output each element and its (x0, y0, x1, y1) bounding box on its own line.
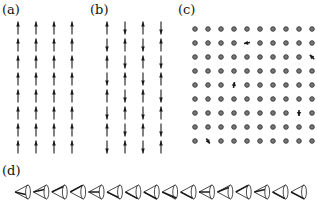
lattice-site-dot-icon (219, 97, 224, 102)
spin-up-arrow-icon (123, 107, 127, 120)
precession-cone-icon (15, 185, 30, 199)
defect-spin-arrow-icon (244, 41, 250, 45)
lattice-site-dot-icon (206, 83, 211, 88)
spin-up-arrow-icon (159, 73, 163, 86)
spin-down-arrow-icon (123, 22, 127, 35)
lattice-site-dot-icon (193, 83, 198, 88)
lattice-site-dot-icon (232, 125, 237, 130)
lattice-site-dot-icon (271, 41, 276, 46)
lattice-site-dot-icon (232, 111, 237, 116)
spin-up-arrow-icon (34, 22, 38, 35)
lattice-site-dot-icon (310, 111, 315, 116)
spin-up-arrow-icon (70, 39, 74, 52)
lattice-site-dot-icon (258, 83, 263, 88)
lattice-site-dot-icon (310, 125, 315, 130)
lattice-site-dot-icon (297, 69, 302, 74)
lattice-site-dot-icon (219, 69, 224, 74)
spin-down-arrow-icon (141, 39, 145, 52)
lattice-site-dot-icon (258, 111, 263, 116)
figure-canvas (0, 0, 317, 207)
precession-cone-icon (181, 185, 196, 199)
panel-c-defect-lattice (193, 27, 315, 144)
precession-cone-icon (254, 185, 269, 199)
defect-spin-arrow-icon (206, 139, 210, 144)
spin-up-arrow-icon (70, 90, 74, 103)
panel-b-antiferromagnet (105, 22, 163, 154)
precession-cone-icon (273, 185, 288, 199)
spin-down-arrow-icon (105, 141, 109, 154)
precession-cone-icon (291, 185, 306, 199)
spin-up-arrow-icon (52, 124, 56, 137)
lattice-site-dot-icon (206, 111, 211, 116)
lattice-site-dot-icon (245, 97, 250, 102)
lattice-site-dot-icon (284, 111, 289, 116)
lattice-site-dot-icon (193, 125, 198, 130)
lattice-site-dot-icon (232, 55, 237, 60)
spin-down-arrow-icon (141, 73, 145, 86)
spin-down-arrow-icon (123, 124, 127, 137)
lattice-site-dot-icon (219, 41, 224, 46)
spin-up-arrow-icon (141, 124, 145, 137)
lattice-site-dot-icon (284, 41, 289, 46)
spin-up-arrow-icon (141, 90, 145, 103)
lattice-site-dot-icon (310, 41, 315, 46)
precession-cone-icon (217, 185, 232, 199)
spin-up-arrow-icon (105, 56, 109, 69)
precession-cone-icon (144, 185, 159, 199)
spin-vector-arrow-icon (52, 187, 63, 192)
spin-up-arrow-icon (34, 56, 38, 69)
spin-vector-arrow-icon (291, 192, 304, 199)
lattice-site-dot-icon (245, 27, 250, 32)
lattice-site-dot-icon (284, 69, 289, 74)
spin-up-arrow-icon (16, 39, 20, 52)
lattice-site-dot-icon (258, 125, 263, 130)
spin-up-arrow-icon (16, 107, 20, 120)
spin-up-arrow-icon (70, 73, 74, 86)
lattice-site-dot-icon (245, 125, 250, 130)
precession-cone-icon (33, 185, 48, 199)
lattice-site-dot-icon (271, 97, 276, 102)
defect-spin-arrow-icon (297, 110, 301, 116)
spin-down-arrow-icon (159, 124, 163, 137)
spin-up-arrow-icon (105, 22, 109, 35)
lattice-site-dot-icon (284, 97, 289, 102)
lattice-site-dot-icon (258, 139, 263, 144)
panel-d-precessing-spins (15, 185, 306, 199)
lattice-site-dot-icon (245, 69, 250, 74)
spin-up-arrow-icon (105, 124, 109, 137)
precession-cone-icon (236, 185, 251, 199)
spin-up-arrow-icon (123, 141, 127, 154)
spin-up-arrow-icon (52, 22, 56, 35)
lattice-site-dot-icon (258, 69, 263, 74)
precession-cone-icon (70, 185, 85, 199)
lattice-site-dot-icon (258, 55, 263, 60)
lattice-site-dot-icon (258, 41, 263, 46)
lattice-site-dot-icon (193, 139, 198, 144)
lattice-site-dot-icon (297, 97, 302, 102)
spin-up-arrow-icon (70, 124, 74, 137)
lattice-site-dot-icon (284, 27, 289, 32)
lattice-site-dot-icon (271, 139, 276, 144)
spin-up-arrow-icon (34, 90, 38, 103)
lattice-site-dot-icon (271, 111, 276, 116)
spin-up-arrow-icon (52, 107, 56, 120)
lattice-site-dot-icon (284, 125, 289, 130)
spin-up-arrow-icon (52, 56, 56, 69)
lattice-site-dot-icon (310, 83, 315, 88)
spin-down-arrow-icon (123, 56, 127, 69)
lattice-site-dot-icon (232, 27, 237, 32)
lattice-site-dot-icon (206, 27, 211, 32)
lattice-site-dot-icon (297, 41, 302, 46)
lattice-site-dot-icon (310, 139, 315, 144)
lattice-site-dot-icon (219, 111, 224, 116)
spin-up-arrow-icon (34, 124, 38, 137)
lattice-site-dot-icon (206, 41, 211, 46)
spin-up-arrow-icon (52, 90, 56, 103)
lattice-site-dot-icon (271, 55, 276, 60)
lattice-site-dot-icon (310, 97, 315, 102)
lattice-site-dot-icon (258, 97, 263, 102)
lattice-site-dot-icon (193, 97, 198, 102)
lattice-site-dot-icon (310, 27, 315, 32)
spin-up-arrow-icon (52, 141, 56, 154)
spin-vector-arrow-icon (107, 192, 118, 197)
